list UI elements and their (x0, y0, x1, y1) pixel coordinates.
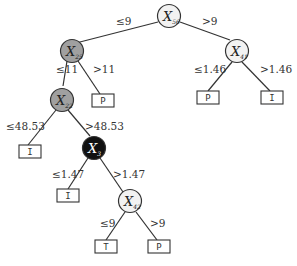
edge-label: ≤9 (116, 15, 131, 27)
leaf-t-1: T (95, 240, 117, 253)
edge-label: ≤1.46 (194, 63, 226, 75)
edge-label: >48.53 (85, 120, 124, 132)
node-x3: X3 (83, 137, 106, 160)
leaf-label: I (27, 147, 32, 157)
edge-label: ≤48.53 (6, 120, 45, 132)
leaf-label: T (103, 242, 109, 252)
edge-label: >1.47 (113, 168, 145, 180)
node-x41: X41 (226, 40, 249, 63)
leaf-p-2: P (197, 91, 219, 104)
edge-label: ≤9 (100, 217, 115, 229)
leaf-label: P (156, 242, 162, 252)
leaf-label: P (100, 96, 106, 106)
leaf-i-1: I (261, 91, 283, 104)
edge-label: ≤11 (56, 63, 78, 75)
node-x22: X22 (51, 89, 74, 112)
node-x42: X42 (119, 190, 142, 213)
edge-label: >11 (93, 63, 115, 75)
leaf-p-1: P (92, 94, 114, 107)
decision-tree: ≤9 >9 ≤11 >11 ≤1.46 >1.46 ≤48.53 >48.53 … (0, 0, 297, 266)
edge-label: >9 (202, 15, 217, 27)
edge-label: >1.46 (260, 63, 292, 75)
edge-label: ≤1.47 (52, 168, 84, 180)
leaf-p-3: P (148, 240, 170, 253)
leaf-label: I (269, 93, 274, 103)
edge-labels: ≤9 >9 ≤11 >11 ≤1.46 >1.46 ≤48.53 >48.53 … (6, 15, 292, 229)
node-x56: X56 (158, 5, 181, 28)
leaf-i-3: I (57, 189, 79, 202)
node-x25: X25 (61, 40, 84, 63)
leaf-label: I (65, 191, 70, 201)
leaf-i-2: I (19, 145, 41, 158)
leaf-label: P (205, 93, 211, 103)
edge-label: >9 (150, 217, 165, 229)
